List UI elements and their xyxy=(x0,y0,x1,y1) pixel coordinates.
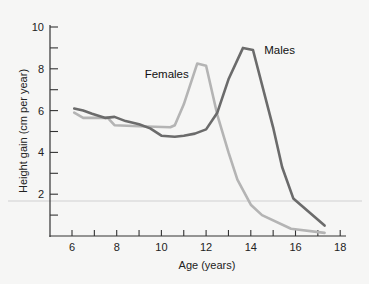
x-tick-label: 12 xyxy=(200,241,212,253)
x-tick-label: 14 xyxy=(245,241,257,253)
y-tick-label: 2 xyxy=(38,188,44,200)
x-tick-label: 8 xyxy=(114,241,120,253)
x-tick-label: 6 xyxy=(69,241,75,253)
series-label-females: Females xyxy=(145,68,189,80)
x-tick-label: 18 xyxy=(334,241,346,253)
y-tick-label: 6 xyxy=(38,105,44,117)
height-gain-chart: 246810 681012141618 Height gain (cm per … xyxy=(0,0,369,284)
y-axis-title: Height gain (cm per year) xyxy=(17,69,29,193)
series-label-males: Males xyxy=(264,44,295,56)
y-tick-label: 10 xyxy=(32,21,44,33)
chart-background xyxy=(0,0,369,284)
y-tick-label: 8 xyxy=(38,63,44,75)
x-tick-label: 16 xyxy=(289,241,301,253)
x-tick-label: 10 xyxy=(155,241,167,253)
y-tick-label: 4 xyxy=(38,146,44,158)
x-axis-title: Age (years) xyxy=(179,259,236,271)
